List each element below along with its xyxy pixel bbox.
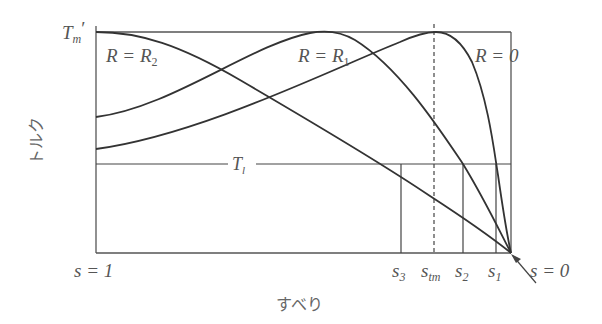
s-equals-0-label: s = 0	[530, 260, 570, 281]
torque-slip-diagram: Tm′ R = R2 R = R1 R = 0 Tl トルク s = 1 s3 …	[0, 0, 602, 324]
curve-label-r0: R = 0	[474, 45, 519, 66]
s2-label: s2	[455, 260, 468, 284]
x-axis-label: すべり	[276, 295, 323, 314]
y-axis-label: トルク	[27, 117, 46, 165]
tl-label: Tl	[232, 154, 245, 176]
curve-label-r1: R = R1	[297, 45, 350, 69]
tm-prime-label: Tm′	[62, 18, 85, 46]
stm-label: stm	[421, 260, 441, 284]
curve-label-r2: R = R2	[105, 45, 158, 69]
s3-label: s3	[392, 260, 405, 284]
s1-label: s1	[488, 260, 501, 284]
s0-arrowhead-icon	[511, 254, 521, 263]
s-equals-1-label: s = 1	[74, 260, 113, 281]
